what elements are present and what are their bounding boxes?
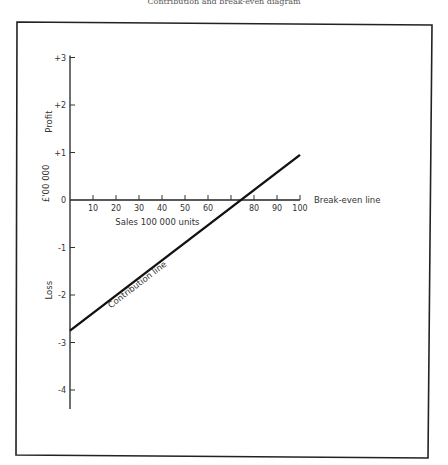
y-label-profit: Profit xyxy=(44,110,54,133)
x-tick-label: 80 xyxy=(249,204,259,213)
contribution-line xyxy=(70,155,300,331)
y-tick-label: -1 xyxy=(58,244,66,253)
series-group xyxy=(70,155,300,331)
y-label-loss: Loss xyxy=(44,280,54,299)
break-even-chart: Contribution and break-even diagram +3+2… xyxy=(0,0,448,465)
y-tick-label: +3 xyxy=(54,54,66,63)
y-tick-label: -4 xyxy=(58,386,66,395)
x-tick-label: 100 xyxy=(292,204,307,213)
break-even-line-label: Break-even line xyxy=(314,195,381,205)
y-tick-label: 0 xyxy=(61,196,66,205)
x-tick-label: 50 xyxy=(180,204,190,213)
x-tick-label: 60 xyxy=(203,204,213,213)
y-tick-label: -3 xyxy=(58,339,66,348)
contribution-line-label: Contribution line xyxy=(106,259,168,310)
x-tick-label: 40 xyxy=(157,204,167,213)
x-tick-label: 30 xyxy=(134,204,144,213)
chart-frame xyxy=(16,22,432,458)
x-axis-title: Sales 100 000 units xyxy=(115,217,200,227)
page-header: Contribution and break-even diagram xyxy=(147,0,301,6)
x-tick-label: 20 xyxy=(111,204,121,213)
y-axis: +3+2+10-1-2-3-4 xyxy=(54,54,75,410)
y-tick-label: +2 xyxy=(54,101,66,110)
x-axis: 1020304050608090100 xyxy=(70,195,308,213)
y-tick-label: -2 xyxy=(58,291,66,300)
x-tick-label: 90 xyxy=(272,204,282,213)
y-tick-label: +1 xyxy=(54,149,66,158)
x-tick-label: 10 xyxy=(88,204,98,213)
y-axis-title: £'00 000 xyxy=(41,165,51,203)
